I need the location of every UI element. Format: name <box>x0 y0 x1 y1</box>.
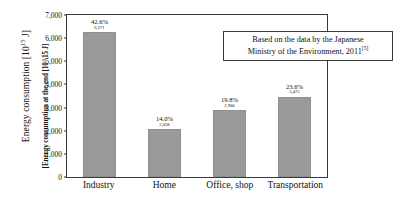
outer-y-axis-title-tail: J] <box>21 30 31 40</box>
x-label-industry: Industry <box>66 180 132 190</box>
bar-value-label: 2,900 <box>224 103 234 108</box>
outer-y-axis-title-main: Energy consumption [10 <box>21 46 31 142</box>
bar-value-label: 6,271 <box>94 25 104 30</box>
annotation-line-2: Ministry of the Environment, 2011 <box>248 47 362 56</box>
bar-office-shop[interactable] <box>213 110 246 177</box>
outer-y-axis-title: Energy consumption [1015 J] <box>19 6 31 166</box>
plot-area: 7,000 6,000 5,000 4,000 3,000 2,000 1,00… <box>66 14 328 178</box>
x-axis-labels: Industry Home Office, shop Transportatio… <box>66 180 328 190</box>
bar-slot-industry: 42.6% 6,271 <box>67 15 132 177</box>
bar-home[interactable] <box>148 129 181 177</box>
bar-value-label: 3,475 <box>289 89 299 94</box>
source-annotation: Based on the data by the Japanese Minist… <box>223 31 393 61</box>
bar-transportation[interactable] <box>278 97 311 177</box>
bar-industry[interactable] <box>83 32 116 177</box>
bar-value-label: 2,058 <box>159 122 169 127</box>
x-label-office-shop: Office, shop <box>197 180 263 190</box>
annotation-citation: [5] <box>362 45 368 51</box>
x-label-transportation: Transportation <box>263 180 329 190</box>
bar-slot-home: 14.0% 2,058 <box>132 15 197 177</box>
x-label-home: Home <box>132 180 198 190</box>
outer-y-axis-title-exponent: 15 <box>19 40 26 47</box>
annotation-line-1: Based on the data by the Japanese <box>252 35 363 44</box>
